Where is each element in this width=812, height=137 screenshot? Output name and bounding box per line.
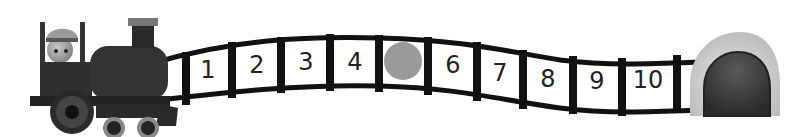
driver-icon bbox=[46, 29, 78, 63]
tunnel-icon bbox=[690, 32, 780, 116]
slot-number-3: 3 bbox=[298, 48, 313, 76]
slot-number-9: 9 bbox=[589, 67, 604, 95]
track bbox=[150, 34, 700, 116]
slot-number-8: 8 bbox=[540, 65, 555, 93]
number-train-scene: 1 2 3 4 6 7 8 9 10 bbox=[0, 0, 812, 137]
slot-number-7: 7 bbox=[492, 59, 507, 87]
train-icon bbox=[30, 18, 178, 137]
slot-number-4: 4 bbox=[347, 48, 362, 76]
slot-number-1: 1 bbox=[200, 56, 215, 84]
slot-number-2: 2 bbox=[249, 51, 264, 79]
slot-number-6: 6 bbox=[445, 51, 460, 79]
slot-number-10: 10 bbox=[633, 66, 664, 94]
missing-number-marker[interactable] bbox=[384, 42, 422, 80]
